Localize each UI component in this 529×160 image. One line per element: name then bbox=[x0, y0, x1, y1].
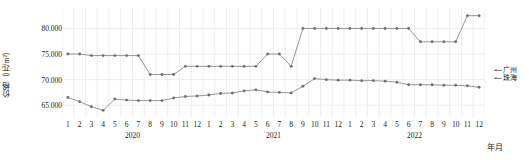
x-axis-caption: 年月 bbox=[487, 141, 503, 152]
data-point bbox=[102, 109, 105, 112]
x-axis-tick-label: 1 bbox=[348, 120, 352, 129]
data-point bbox=[196, 95, 199, 98]
data-point bbox=[419, 83, 422, 86]
data-point bbox=[384, 27, 387, 30]
data-point bbox=[454, 40, 457, 43]
data-point bbox=[313, 77, 316, 80]
data-point bbox=[243, 65, 246, 68]
data-point bbox=[431, 40, 434, 43]
x-axis-tick-label: 5 bbox=[254, 120, 258, 129]
y-axis-tick-label: 80.000 bbox=[20, 24, 62, 33]
legend-item[interactable]: 广州 bbox=[494, 66, 528, 74]
data-point bbox=[419, 40, 422, 43]
data-point bbox=[113, 54, 116, 57]
legend-line-marker-icon bbox=[494, 78, 502, 79]
x-axis-tick-label: 8 bbox=[289, 120, 293, 129]
x-axis-tick-label: 6 bbox=[407, 120, 411, 129]
x-axis-tick-label: 4 bbox=[101, 120, 105, 129]
data-point bbox=[290, 65, 293, 68]
y-axis-tick-labels: 65.00070.00075.00080.000 bbox=[0, 0, 62, 160]
data-point bbox=[266, 53, 269, 56]
data-point bbox=[219, 92, 222, 95]
data-point bbox=[254, 65, 257, 68]
x-axis-tick-label: 6 bbox=[125, 120, 129, 129]
x-axis-tick-label: 4 bbox=[383, 120, 387, 129]
x-axis-tick-label: 3 bbox=[231, 120, 235, 129]
data-point bbox=[172, 97, 175, 100]
x-axis-year-label: 2020 bbox=[125, 131, 140, 140]
data-point bbox=[431, 83, 434, 86]
data-point bbox=[325, 27, 328, 30]
data-point bbox=[442, 40, 445, 43]
data-point bbox=[160, 73, 163, 76]
x-axis-tick-label: 12 bbox=[475, 120, 483, 129]
x-axis-tick-label: 10 bbox=[311, 120, 319, 129]
data-point bbox=[407, 27, 410, 30]
x-axis-tick-label: 8 bbox=[148, 120, 152, 129]
data-point bbox=[478, 14, 481, 17]
plot-area bbox=[62, 8, 485, 118]
data-point bbox=[196, 65, 199, 68]
data-point bbox=[278, 91, 281, 94]
x-axis-tick-label: 11 bbox=[182, 120, 189, 129]
data-point bbox=[125, 99, 128, 102]
x-axis-tick-label: 5 bbox=[113, 120, 117, 129]
data-point bbox=[66, 96, 69, 99]
legend-item-label: 广州 bbox=[503, 66, 517, 74]
data-point bbox=[160, 99, 163, 102]
x-axis-tick-label: 8 bbox=[430, 120, 434, 129]
x-axis-tick-label: 2 bbox=[219, 120, 223, 129]
x-axis-tick-label: 7 bbox=[137, 120, 141, 129]
x-axis-year-labels: 202020212022 bbox=[62, 131, 485, 143]
data-point bbox=[360, 79, 363, 82]
x-axis-tick-label: 2 bbox=[360, 120, 364, 129]
data-point bbox=[137, 54, 140, 57]
data-point bbox=[337, 27, 340, 30]
data-point bbox=[90, 105, 93, 108]
data-point bbox=[149, 73, 152, 76]
data-point bbox=[149, 99, 152, 102]
x-axis-tick-label: 12 bbox=[193, 120, 201, 129]
legend-line-marker-icon bbox=[494, 70, 502, 71]
x-axis-tick-label: 1 bbox=[207, 120, 211, 129]
data-point bbox=[325, 78, 328, 81]
x-axis-tick-label: 9 bbox=[160, 120, 164, 129]
data-point bbox=[407, 83, 410, 86]
data-point bbox=[231, 91, 234, 94]
x-axis-tick-label: 5 bbox=[395, 120, 399, 129]
data-point bbox=[254, 88, 257, 91]
data-point bbox=[360, 27, 363, 30]
x-axis-tick-label: 9 bbox=[301, 120, 305, 129]
y-axis-tick-label: 65.000 bbox=[20, 101, 62, 110]
data-point bbox=[454, 84, 457, 87]
data-point bbox=[395, 27, 398, 30]
data-point bbox=[348, 27, 351, 30]
data-point bbox=[442, 84, 445, 87]
x-axis-tick-label: 10 bbox=[452, 120, 460, 129]
x-axis-year-label: 2022 bbox=[407, 131, 422, 140]
data-point bbox=[78, 53, 81, 56]
x-axis-tick-label: 3 bbox=[372, 120, 376, 129]
y-axis-tick-label: 70.000 bbox=[20, 75, 62, 84]
x-axis-tick-label: 4 bbox=[242, 120, 246, 129]
data-point bbox=[184, 95, 187, 98]
legend-item[interactable]: 珠海 bbox=[494, 74, 528, 82]
data-point bbox=[290, 91, 293, 94]
data-point bbox=[243, 89, 246, 92]
data-point bbox=[266, 90, 269, 93]
x-axis-tick-label: 11 bbox=[464, 120, 471, 129]
data-point bbox=[137, 99, 140, 102]
data-point bbox=[372, 79, 375, 82]
data-point bbox=[219, 65, 222, 68]
data-point bbox=[113, 98, 116, 101]
data-point bbox=[466, 14, 469, 17]
data-point bbox=[90, 54, 93, 57]
data-point bbox=[478, 86, 481, 89]
data-point bbox=[301, 27, 304, 30]
x-axis-tick-label: 6 bbox=[266, 120, 270, 129]
data-point bbox=[207, 94, 210, 97]
x-axis-year-label: 2021 bbox=[266, 131, 281, 140]
data-point bbox=[207, 65, 210, 68]
chart-legend: 广州珠海 bbox=[494, 66, 528, 82]
plot-svg bbox=[62, 8, 485, 118]
